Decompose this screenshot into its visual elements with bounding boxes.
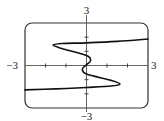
y-min-label: −3: [81, 110, 93, 121]
x-max-label: 3: [151, 59, 157, 71]
y-max-label: 3: [84, 4, 90, 16]
x-min-label: −3: [6, 59, 18, 71]
graph: 3 −3 −3 3: [0, 0, 164, 121]
